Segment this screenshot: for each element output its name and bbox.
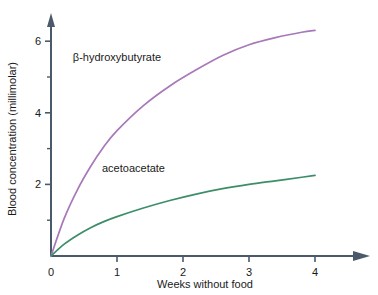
x-tick-label: 1 (114, 266, 120, 278)
ketone-body-concentration-line-chart: 246 01234 β-hydroxybutyrateacetoacetate … (0, 0, 378, 295)
y-tick-label: 2 (35, 178, 41, 190)
x-tick-label: 2 (180, 266, 186, 278)
x-axis-title: Weeks without food (157, 278, 253, 290)
x-tick-label: 4 (312, 266, 318, 278)
series-label-acetoacetate: acetoacetate (102, 162, 165, 174)
y-axis-title: Blood concentration (millimolar) (6, 62, 18, 216)
x-tick-label: 3 (246, 266, 252, 278)
x-tick-label: 0 (48, 266, 54, 278)
chart-figure: 246 01234 β-hydroxybutyrateacetoacetate … (0, 0, 378, 295)
series-label-hydroxybutyrate: β-hydroxybutyrate (73, 51, 161, 63)
y-tick-label: 4 (35, 107, 41, 119)
y-tick-label: 6 (35, 35, 41, 47)
